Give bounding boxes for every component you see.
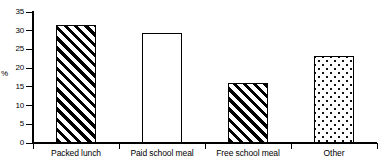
x-tick-3 bbox=[377, 143, 378, 149]
bar-paid-school-meal bbox=[142, 33, 182, 143]
x-label-packed-lunch: Packed lunch bbox=[33, 148, 119, 158]
bar-series bbox=[0, 0, 380, 143]
bar-chart: % 05101520253035 Packed lunchPaid school… bbox=[0, 0, 380, 164]
bar-packed-lunch bbox=[56, 25, 96, 143]
x-label-other: Other bbox=[291, 148, 377, 158]
bar-other bbox=[314, 56, 354, 143]
bar-free-school-meal bbox=[228, 83, 268, 143]
x-label-free-school-meal: Free school meal bbox=[205, 148, 291, 158]
x-label-paid-school-meal: Paid school meal bbox=[119, 148, 205, 158]
